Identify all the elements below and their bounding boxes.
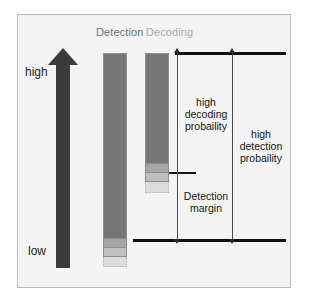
decoding-bar-lower-segment: [145, 173, 169, 182]
detection-bar-faint-segment: [103, 257, 127, 267]
dim-left-bottom-arrow-icon: [174, 239, 180, 244]
dim-right-top-arrow-icon: [229, 48, 235, 53]
axis-label-low: low: [28, 244, 46, 258]
decoding-bar: [145, 53, 169, 193]
decoding-bar-mid-segment: [145, 164, 169, 173]
detection-bar-solid-segment: [103, 53, 127, 239]
note-decoding-probability: highdecodingprobaility: [184, 96, 228, 132]
decoding-bar-faint-segment: [145, 182, 169, 193]
detection-dimension-line: [232, 53, 233, 239]
detection-bar: [103, 53, 127, 267]
note-detection-probability: highdetectionprobaility: [236, 128, 286, 164]
detection-threshold-tick: [169, 172, 196, 174]
diagram-canvas: Detection Decoding high low highdecoding…: [0, 0, 310, 302]
dim-right-bottom-arrow-icon: [229, 239, 235, 244]
decoding-dimension-line: [177, 53, 178, 239]
axis-label-high: high: [25, 65, 48, 79]
note-detection-margin: Detectionmargin: [180, 190, 232, 214]
lower-reference-line: [133, 239, 286, 242]
detection-bar-lower-segment: [103, 248, 127, 257]
detection-bar-mid-segment: [103, 239, 127, 248]
decoding-bar-solid-segment: [145, 53, 169, 164]
title-decoding: Decoding: [146, 26, 193, 38]
dim-left-top-arrow-icon: [174, 48, 180, 53]
arrow-head-icon: [48, 48, 78, 65]
title-detection: Detection: [96, 26, 143, 38]
magnitude-arrow-icon: [48, 48, 78, 268]
arrow-shaft: [56, 64, 70, 268]
